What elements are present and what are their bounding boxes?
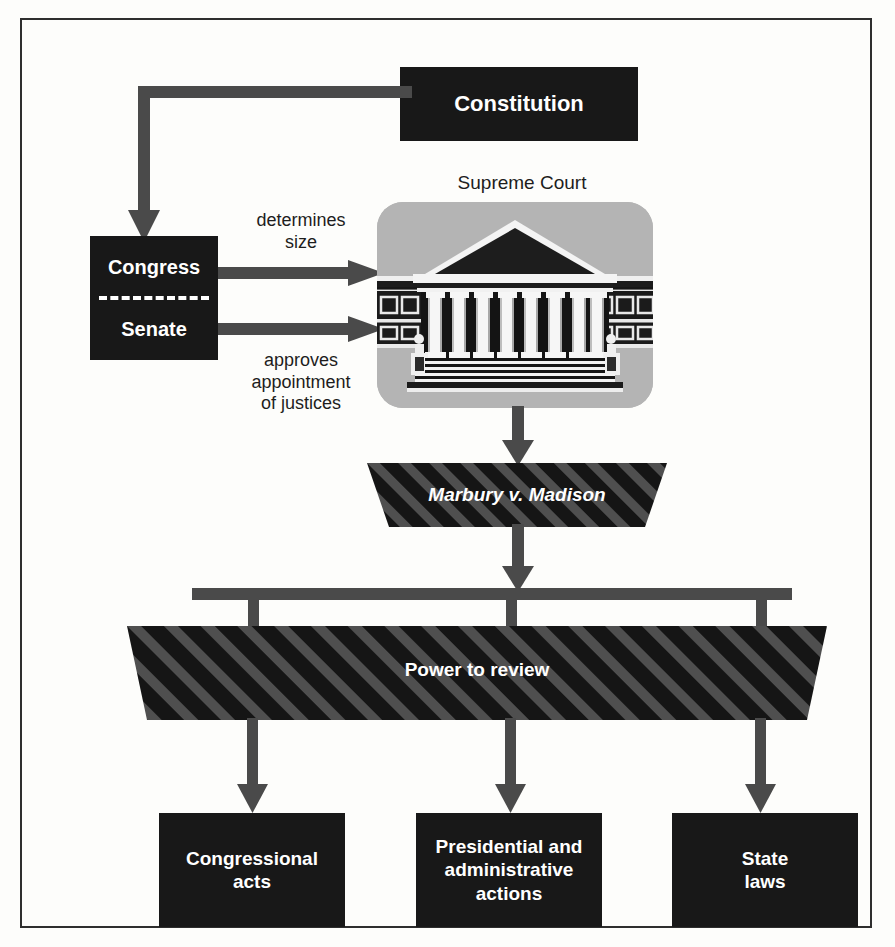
node-congressional-acts-line2: acts <box>186 870 318 893</box>
node-constitution[interactable]: Constitution <box>400 67 638 141</box>
node-power-to-review[interactable]: Power to review <box>127 626 827 720</box>
legislature-divider <box>99 296 209 300</box>
edge-label-determines-size-line1: determines <box>208 210 394 232</box>
node-state-laws-line2: laws <box>742 870 788 893</box>
node-congressional-acts-line1: Congressional <box>186 847 318 870</box>
node-supreme-court[interactable] <box>377 202 653 408</box>
node-presidential-line1: Presidential and <box>436 835 583 858</box>
node-congress-label: Congress <box>108 255 200 279</box>
node-legislature[interactable]: Congress Senate <box>90 236 218 360</box>
node-state-laws[interactable]: State laws <box>672 813 858 927</box>
node-senate[interactable]: Senate <box>90 298 218 360</box>
node-presidential-line3: actions <box>436 882 583 905</box>
connector-court-to-marbury <box>500 406 536 466</box>
courthouse-icon <box>377 202 653 408</box>
connector-power-distribution-bar <box>192 588 792 630</box>
node-constitution-label: Constitution <box>454 91 584 118</box>
diagram-frame: Constitution Congress Senate d <box>20 18 872 928</box>
node-power-to-review-label: Power to review <box>127 659 827 681</box>
node-state-laws-line1: State <box>742 847 788 870</box>
edge-label-approves-appointment: approves appointment of justices <box>208 350 394 415</box>
connector-congress-to-court <box>218 260 384 286</box>
supreme-court-title-label: Supreme Court <box>458 172 587 193</box>
node-congress[interactable]: Congress <box>90 236 218 298</box>
diagram-page: Constitution Congress Senate d <box>0 0 895 947</box>
connector-senate-to-court <box>218 316 384 342</box>
edge-label-determines-size: determines size <box>208 210 394 253</box>
edge-label-approves-line2: appointment <box>208 372 394 394</box>
connector-marbury-to-power <box>500 524 536 592</box>
node-congressional-acts[interactable]: Congressional acts <box>159 813 345 927</box>
node-marbury-v-madison[interactable]: Marbury v. Madison <box>367 463 667 527</box>
node-presidential-administrative-actions[interactable]: Presidential and administrative actions <box>416 813 602 927</box>
supreme-court-title: Supreme Court <box>402 172 642 194</box>
edge-label-approves-line1: approves <box>208 350 394 372</box>
edge-label-determines-size-line2: size <box>208 232 394 254</box>
node-marbury-label: Marbury v. Madison <box>367 484 667 506</box>
connector-power-to-targets <box>237 718 797 816</box>
node-senate-label: Senate <box>121 317 187 341</box>
node-presidential-line2: administrative <box>436 858 583 881</box>
edge-label-approves-line3: of justices <box>208 393 394 415</box>
